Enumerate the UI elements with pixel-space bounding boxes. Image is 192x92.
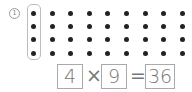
- dot: [105, 11, 110, 16]
- dot: [143, 11, 148, 16]
- dot: [87, 11, 92, 16]
- dot: [31, 11, 36, 16]
- dot: [143, 24, 148, 29]
- dot: [124, 51, 129, 56]
- dot: [180, 11, 185, 16]
- dot: [68, 37, 73, 42]
- dot: [31, 51, 36, 56]
- dot: [87, 24, 92, 29]
- dot: [143, 51, 148, 56]
- dot: [50, 11, 55, 16]
- dot: [105, 51, 110, 56]
- dot: [105, 37, 110, 42]
- equals-sign: =: [130, 64, 146, 87]
- dot: [50, 24, 55, 29]
- dot: [68, 51, 73, 56]
- factor-b-box: 9: [101, 64, 127, 89]
- dot: [87, 37, 92, 42]
- dot: [143, 37, 148, 42]
- dot: [124, 11, 129, 16]
- product-box: 36: [145, 64, 175, 89]
- factor-a-box: 4: [57, 64, 83, 89]
- dot: [161, 24, 166, 29]
- dot: [68, 24, 73, 29]
- dot: [124, 24, 129, 29]
- dot: [50, 37, 55, 42]
- dot: [50, 51, 55, 56]
- multiply-sign: ×: [86, 64, 102, 87]
- problem-number: 1: [9, 8, 20, 19]
- dot: [180, 51, 185, 56]
- dot: [161, 51, 166, 56]
- dot: [105, 24, 110, 29]
- dot: [161, 11, 166, 16]
- dot: [180, 37, 185, 42]
- dot: [180, 24, 185, 29]
- dot: [124, 37, 129, 42]
- dot: [68, 11, 73, 16]
- dot: [161, 37, 166, 42]
- dot: [87, 51, 92, 56]
